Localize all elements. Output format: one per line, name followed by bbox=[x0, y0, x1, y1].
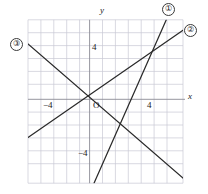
y-tick-label-positive-4: 4 bbox=[92, 43, 97, 52]
line-marker-2: ② bbox=[184, 24, 197, 37]
x-axis-label: x bbox=[188, 92, 192, 101]
x-tick-label-positive-4: 4 bbox=[147, 101, 152, 110]
origin-label: O bbox=[93, 101, 100, 110]
plot-canvas bbox=[0, 0, 208, 194]
y-tick-label-negative-4: −4 bbox=[78, 149, 88, 158]
x-tick-label-negative-4: −4 bbox=[43, 101, 53, 110]
line-marker-1: ① bbox=[162, 3, 175, 16]
line-marker-3: ③ bbox=[10, 38, 23, 51]
coordinate-plane-figure: y x O −4 4 4 −4 ① ② ③ bbox=[0, 0, 208, 194]
y-axis-label: y bbox=[100, 6, 104, 15]
